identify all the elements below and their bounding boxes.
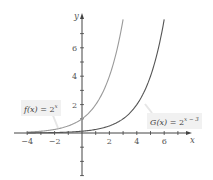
label-pointers xyxy=(52,104,152,128)
x-tick-label: 6 xyxy=(162,137,167,146)
exponential-graph: −4−2246246xy xyxy=(0,0,213,180)
x-tick-label: 4 xyxy=(134,137,139,146)
x-tick-label: −4 xyxy=(21,137,33,146)
y-tick-label: 6 xyxy=(72,44,77,53)
axes: −4−2246246xy xyxy=(14,11,195,176)
x-axis-label: x xyxy=(190,135,195,145)
y-axis-label: y xyxy=(73,11,79,21)
y-axis-arrow-icon xyxy=(80,13,84,19)
y-tick-label: 2 xyxy=(72,101,77,110)
x-tick-label: −2 xyxy=(49,137,61,146)
x-tick-label: 2 xyxy=(107,137,112,146)
g-function-label: G(x) = 2x − 3 xyxy=(147,113,202,129)
g-label-pointer xyxy=(145,104,152,113)
f-function-label: f(x) = 2x xyxy=(21,100,61,116)
y-tick-label: 4 xyxy=(72,72,77,81)
